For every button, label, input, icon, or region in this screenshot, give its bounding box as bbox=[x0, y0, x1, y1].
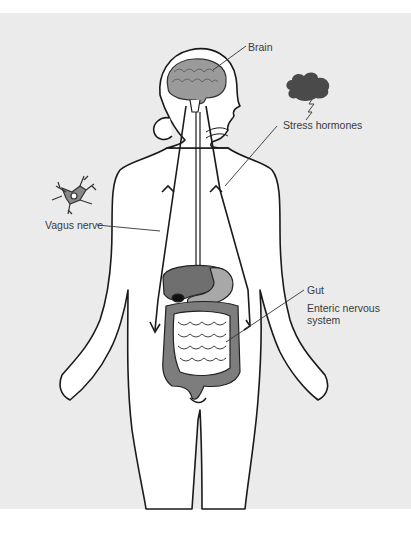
stress-hormones-label: Stress hormones bbox=[283, 119, 362, 131]
gut-label: Gut bbox=[307, 284, 324, 296]
human-body-figure bbox=[0, 0, 411, 537]
brain-label: Brain bbox=[248, 41, 273, 53]
storm-cloud-icon bbox=[286, 72, 329, 120]
neuron-icon bbox=[52, 176, 96, 214]
enteric-nervous-system-label: Enteric nervous system bbox=[307, 302, 380, 326]
digestive-organs bbox=[163, 265, 240, 402]
enteric-label-line2: system bbox=[307, 314, 340, 326]
vagus-nerve-label: Vagus nerve bbox=[45, 219, 103, 231]
enteric-label-line1: Enteric nervous bbox=[307, 302, 380, 314]
